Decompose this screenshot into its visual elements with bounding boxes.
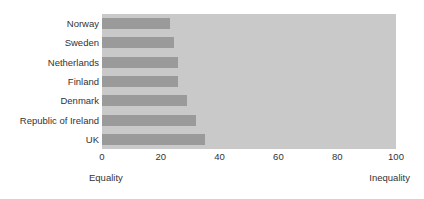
bar-row: [102, 57, 396, 68]
bar-norway: [102, 18, 170, 29]
axis-end-annotations: Equality Inequality: [0, 172, 424, 188]
category-label: Norway: [0, 18, 99, 29]
bar-finland: [102, 76, 178, 87]
category-axis-labels: NorwaySwedenNetherlandsFinlandDenmarkRep…: [0, 14, 99, 149]
bar-chart: NorwaySwedenNetherlandsFinlandDenmarkRep…: [0, 0, 424, 199]
bar-row: [102, 18, 396, 29]
x-tick-label: 40: [214, 151, 225, 163]
category-label: Finland: [0, 76, 99, 87]
category-label: Sweden: [0, 37, 99, 48]
bar-denmark: [102, 95, 187, 106]
x-tick-label: 60: [273, 151, 284, 163]
bar-uk: [102, 134, 205, 145]
bar-row: [102, 37, 396, 48]
x-axis-tick-labels: 020406080100: [102, 149, 396, 165]
bar-row: [102, 95, 396, 106]
category-label: Netherlands: [0, 57, 99, 68]
bar-republic-of-ireland: [102, 115, 196, 126]
category-label: UK: [0, 134, 99, 145]
plot-area: [102, 14, 396, 149]
bar-sweden: [102, 37, 174, 48]
bar-row: [102, 134, 396, 145]
bar-row: [102, 115, 396, 126]
bar-row: [102, 76, 396, 87]
x-tick-label: 20: [156, 151, 167, 163]
x-tick-label: 80: [332, 151, 343, 163]
equality-annotation: Equality: [89, 172, 123, 184]
x-tick-label: 100: [388, 151, 404, 163]
inequality-annotation: Inequality: [369, 172, 410, 184]
x-tick-label: 0: [99, 151, 104, 163]
category-label: Republic of Ireland: [0, 115, 99, 126]
bar-netherlands: [102, 57, 178, 68]
category-label: Denmark: [0, 95, 99, 106]
